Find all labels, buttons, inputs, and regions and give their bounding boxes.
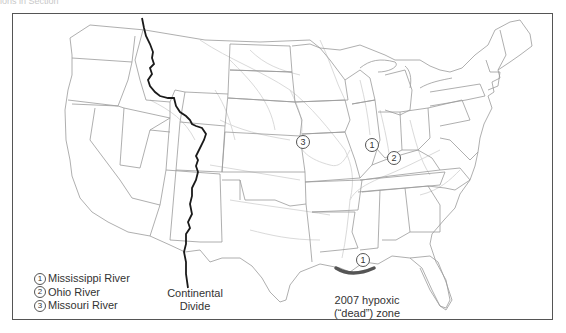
hz-label-line1: 2007 hypoxic (327, 294, 407, 307)
number-circle-icon: 2 (34, 286, 46, 298)
continental-divide-line (142, 18, 206, 288)
state-borders (65, 20, 532, 308)
legend-item-mississippi: 1 Mississippi River (34, 272, 130, 286)
florida-outline (410, 256, 452, 310)
number-circle-icon: 1 (34, 273, 46, 285)
legend-item-ohio: 2 Ohio River (34, 286, 130, 300)
legend-item-missouri: 3 Missouri River (34, 299, 130, 313)
marker-missouri-river: 3 (296, 135, 310, 149)
marker-mississippi-mouth: 1 (356, 253, 370, 267)
legend: 1 Mississippi River 2 Ohio River 3 Misso… (34, 272, 130, 313)
marker-mississippi-river: 1 (365, 138, 379, 152)
cd-label-line2: Divide (160, 300, 230, 313)
cd-label-line1: Continental (160, 287, 230, 300)
river-network (150, 40, 460, 258)
legend-label: Ohio River (48, 286, 100, 300)
hz-label-line2: (“dead”) zone (327, 307, 407, 320)
continental-divide-label: Continental Divide (160, 287, 230, 313)
legend-label: Missouri River (48, 299, 118, 313)
marker-ohio-river: 2 (387, 151, 401, 165)
legend-label: Mississippi River (48, 272, 130, 286)
hypoxic-zone-label: 2007 hypoxic (“dead”) zone (327, 294, 407, 320)
number-circle-icon: 3 (34, 300, 46, 312)
